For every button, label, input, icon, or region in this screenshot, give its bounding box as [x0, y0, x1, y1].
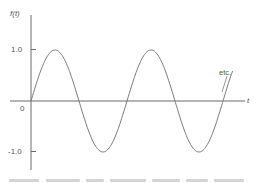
- annotation-etc: etc.: [219, 68, 231, 77]
- sine-wave-chart: [0, 0, 258, 183]
- y-axis-label: f(t): [10, 9, 20, 18]
- figure-caption-clipped: [0, 176, 258, 183]
- y-tick-label-neg: -1.0: [8, 147, 22, 156]
- x-axis-label: t: [247, 96, 249, 105]
- y-tick-label-zero: 0: [20, 104, 24, 113]
- y-tick-label-pos: 1.0: [11, 45, 22, 54]
